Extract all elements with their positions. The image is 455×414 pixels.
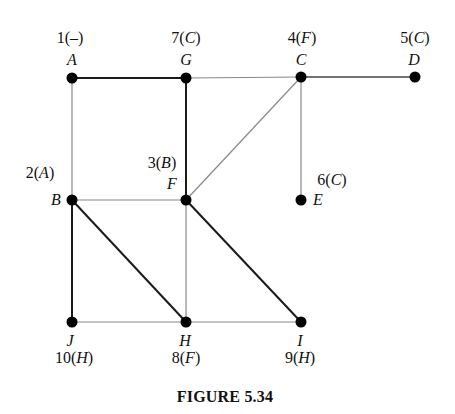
- node-I: [296, 317, 307, 328]
- node-D: [410, 72, 421, 83]
- node-B: [67, 195, 78, 206]
- label-B: 2(A): [26, 165, 54, 181]
- node-name-A: A: [67, 52, 77, 68]
- node-name-H: H: [179, 333, 191, 349]
- edge-G-C: [186, 77, 301, 78]
- node-E: [296, 195, 307, 206]
- label-G: 7(C): [171, 30, 200, 46]
- node-G: [181, 73, 192, 84]
- node-name-G: G: [180, 52, 192, 68]
- edge-F-I: [186, 200, 301, 322]
- edge-B-H: [72, 200, 186, 322]
- node-A: [67, 73, 78, 84]
- node-name-D: D: [408, 52, 420, 68]
- label-D: 5(C): [400, 30, 429, 46]
- node-C: [296, 72, 307, 83]
- node-F: [181, 195, 192, 206]
- node-name-C: C: [296, 52, 307, 68]
- edges: [72, 77, 415, 322]
- figure-caption: FIGURE 5.34: [177, 388, 273, 406]
- edge-C-F: [186, 77, 301, 200]
- node-name-I: I: [297, 333, 302, 349]
- label-I: 9(H): [285, 350, 315, 366]
- label-J: 10(H): [55, 350, 93, 366]
- node-H: [181, 317, 192, 328]
- label-A: 1(–): [57, 30, 84, 46]
- label-C: 4(F): [288, 30, 316, 46]
- node-name-B: B: [51, 192, 61, 208]
- node-name-E: E: [313, 192, 323, 208]
- node-name-J: J: [66, 333, 73, 349]
- node-J: [67, 317, 78, 328]
- label-F: 3(B): [148, 155, 176, 171]
- label-H: 8(F): [172, 350, 200, 366]
- label-E: 6(C): [317, 172, 346, 188]
- node-name-F: F: [167, 176, 177, 192]
